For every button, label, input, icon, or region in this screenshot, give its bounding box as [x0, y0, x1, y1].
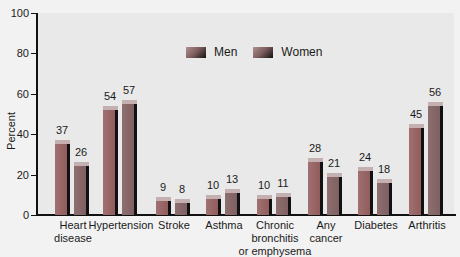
- bar-women: [122, 100, 137, 215]
- y-tick: [31, 215, 37, 216]
- bar-value-label: 26: [66, 146, 96, 158]
- bar-women: [327, 173, 342, 215]
- y-tick: [31, 175, 37, 176]
- legend: Men Women: [186, 45, 338, 59]
- x-axis: [36, 214, 456, 216]
- bar-women: [225, 189, 240, 215]
- y-tick-label: 60: [3, 88, 29, 100]
- bar-value-label: 57: [114, 84, 144, 96]
- bar-value-label: 24: [350, 151, 380, 163]
- y-tick-label: 0: [3, 209, 29, 221]
- y-tick-label: 40: [3, 128, 29, 140]
- bar-value-label: 37: [47, 124, 77, 136]
- bar-value-label: 45: [401, 108, 431, 120]
- category-label: Arthritis: [382, 219, 460, 232]
- legend-swatch-men: [186, 47, 206, 58]
- bar-men: [103, 106, 118, 215]
- y-tick-label: 100: [3, 7, 29, 19]
- bar-value-label: 8: [167, 183, 197, 195]
- bar-women: [175, 199, 190, 215]
- y-tick: [31, 53, 37, 54]
- bar-value-label: 28: [300, 142, 330, 154]
- bar-men: [257, 195, 272, 215]
- legend-item-women: Women: [253, 45, 322, 59]
- legend-swatch-women: [253, 47, 273, 58]
- legend-label-men: Men: [214, 45, 237, 59]
- bar-value-label: 18: [369, 163, 399, 175]
- y-tick-label: 20: [3, 169, 29, 181]
- bar-value-label: 56: [420, 86, 450, 98]
- y-tick: [31, 13, 37, 14]
- bar-women: [377, 179, 392, 215]
- y-axis: [36, 13, 38, 216]
- bar-value-label: 21: [319, 157, 349, 169]
- bar-men: [156, 197, 171, 215]
- y-tick-label: 80: [3, 47, 29, 59]
- bar-women: [428, 102, 443, 215]
- legend-item-men: Men: [186, 45, 237, 59]
- bar-women: [74, 162, 89, 215]
- bar-men: [409, 124, 424, 215]
- legend-label-women: Women: [281, 45, 322, 59]
- y-tick: [31, 134, 37, 135]
- bar-women: [276, 193, 291, 215]
- bar-men: [206, 195, 221, 215]
- y-tick: [31, 94, 37, 95]
- bar-value-label: 11: [268, 177, 298, 189]
- bar-value-label: 13: [217, 173, 247, 185]
